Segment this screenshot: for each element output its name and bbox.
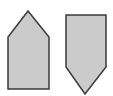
pentagon-down-shape (66, 15, 106, 94)
pentagon-up-shape (8, 11, 49, 89)
diagram-canvas (0, 0, 113, 96)
